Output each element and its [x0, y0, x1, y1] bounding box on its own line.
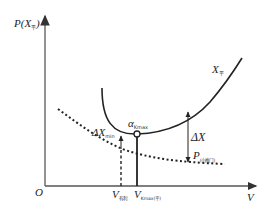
v-favorable-label: V有利	[112, 188, 128, 202]
power-diagram: P(X平) X平 αKmax ΔXmin ΔX P(小推门) O V有利 VKm…	[0, 0, 270, 213]
v-kmax-label: VKmax(平)	[134, 188, 161, 202]
min-point-label: αKmax	[128, 117, 148, 130]
x-axis-label: V	[247, 191, 255, 203]
dotted-curve-label: P(小推门)	[192, 149, 215, 164]
delta-x-label: ΔX	[190, 130, 206, 144]
y-axis-label: P(X平)	[13, 17, 40, 31]
curve-label: X平	[211, 63, 224, 77]
delta-xmin-label: ΔXmin	[91, 126, 115, 139]
min-point-marker	[134, 131, 140, 137]
origin-label: O	[35, 186, 43, 198]
